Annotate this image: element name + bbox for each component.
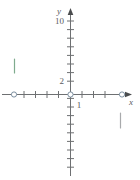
open-circle-point-right [119,92,124,97]
y-axis-arrow-icon [68,8,74,15]
x-tick-label-1: 1 [77,100,82,110]
open-circle-point-origin [68,92,73,97]
y-axis-group: y 10 2 [55,6,74,176]
coordinate-plot: y 10 2 x 1 [0,0,140,180]
y-tick-label-10: 10 [55,16,65,26]
x-axis-label: x [128,97,133,107]
plot-canvas: y 10 2 x 1 [0,0,140,180]
y-axis-label: y [56,6,61,16]
y-tick-label-2: 2 [60,76,65,86]
open-circle-point-left [11,92,16,97]
